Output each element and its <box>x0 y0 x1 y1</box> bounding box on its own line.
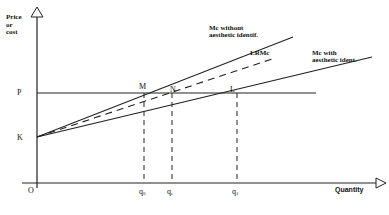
mc-without-label-line-2: aesthetic identif. <box>209 32 258 39</box>
mc-with-label: Mc with aesthetic ident. <box>312 50 357 64</box>
mc-with-label-line-2: aesthetic ident. <box>312 57 357 64</box>
origin-label: O <box>28 187 34 195</box>
y-axis-label-line-3: cost <box>6 29 22 37</box>
point-n-label: N <box>170 86 176 94</box>
tick-q1-label: q1 <box>232 188 239 198</box>
tick-q0-sub: 0 <box>143 191 146 196</box>
tick-qe-sub: e <box>171 191 173 196</box>
x-axis-arrow-icon <box>376 178 386 188</box>
y-axis-label: Price or cost <box>6 14 22 37</box>
tick-q0-label: q0 <box>139 188 146 198</box>
mc-without-label: Mc without aesthetic identif. <box>209 25 258 39</box>
mc-with-curve <box>37 57 372 137</box>
tick-q1-sub: 1 <box>236 191 239 196</box>
point-m-label: M <box>139 83 146 91</box>
price-level-label: P <box>17 89 21 97</box>
y-axis-arrow-icon <box>31 7 43 17</box>
intercept-label: K <box>17 134 23 142</box>
lrmc-label: LRMc <box>250 50 269 57</box>
x-axis-label: Quantity <box>335 186 363 193</box>
diagram-canvas <box>0 0 389 215</box>
point-l-label: L <box>230 86 235 94</box>
tick-qe-label: qe <box>167 188 173 198</box>
